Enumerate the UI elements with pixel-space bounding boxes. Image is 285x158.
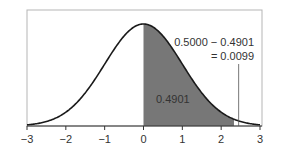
x-tick-label: −1 bbox=[98, 133, 111, 145]
x-tick-label: 0 bbox=[140, 133, 146, 145]
tail-formula-label: 0.5000 − 0.4901 bbox=[174, 36, 254, 48]
x-tick-label: 2 bbox=[218, 133, 224, 145]
x-ticks: −3−2−10123 bbox=[21, 126, 263, 145]
normal-distribution-chart: −3−2−10123 0.4901 0.5000 − 0.4901 = 0.00… bbox=[0, 0, 285, 158]
x-tick-label: 1 bbox=[179, 133, 185, 145]
x-tick-label: −2 bbox=[60, 133, 73, 145]
tail-result-label: = 0.0099 bbox=[211, 50, 254, 62]
shaded-area-label: 0.4901 bbox=[156, 93, 190, 105]
x-tick-label: −3 bbox=[21, 133, 34, 145]
x-tick-label: 3 bbox=[257, 133, 263, 145]
